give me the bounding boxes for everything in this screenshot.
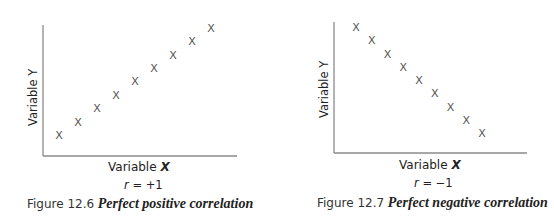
data-point-marker: X — [384, 48, 392, 61]
data-point-marker: X — [93, 102, 101, 115]
data-point-marker: X — [112, 89, 120, 102]
data-point-marker: X — [150, 62, 158, 75]
data-point-marker: X — [169, 49, 177, 62]
data-point-marker: X — [352, 21, 360, 34]
figure-title: Perfect negative correlation — [388, 195, 548, 210]
x-axis-label-text: Variable — [399, 158, 448, 172]
y-axis-label: Variable Y — [26, 68, 40, 126]
x-axis-variable: X — [160, 160, 169, 174]
figure-positive-correlation: Variable Y XXXXXXXXX Variable X r = +1 F… — [0, 0, 277, 219]
x-axis-variable: X — [451, 158, 460, 172]
markers: XXXXXXXXX — [55, 22, 215, 142]
figure-number: Figure 12.6 — [27, 197, 94, 211]
data-point-marker: X — [74, 116, 82, 129]
correlation-coefficient: r = +1 — [124, 178, 163, 192]
data-point-marker: X — [462, 114, 470, 127]
figure-title: Perfect positive correlation — [98, 196, 254, 211]
figure-caption: Figure 12.7 Perfect negative correlation — [317, 195, 548, 211]
x-axis-label: Variable X — [399, 158, 461, 172]
data-point-marker: X — [368, 34, 376, 47]
x-axis-label: Variable X — [108, 160, 170, 174]
data-point-marker: X — [207, 22, 215, 35]
r-value: = +1 — [129, 178, 163, 192]
markers: XXXXXXXXX — [352, 21, 486, 140]
data-point-marker: X — [399, 61, 407, 74]
data-point-marker: X — [188, 35, 196, 48]
data-point-marker: X — [431, 87, 439, 100]
figure-number: Figure 12.7 — [317, 196, 384, 210]
x-axis-label-text: Variable — [108, 160, 157, 174]
data-point-marker: X — [478, 127, 486, 140]
data-point-marker: X — [131, 75, 139, 88]
figure-negative-correlation: Variable Y XXXXXXXXX Variable X r = −1 F… — [277, 0, 554, 219]
data-point-marker: X — [415, 74, 423, 87]
r-value: = −1 — [419, 176, 453, 190]
correlation-coefficient: r = −1 — [414, 176, 453, 190]
data-point-marker: X — [447, 101, 455, 114]
y-axis-label: Variable Y — [317, 60, 331, 118]
data-point-marker: X — [55, 129, 63, 142]
figure-caption: Figure 12.6 Perfect positive correlation — [27, 196, 253, 212]
